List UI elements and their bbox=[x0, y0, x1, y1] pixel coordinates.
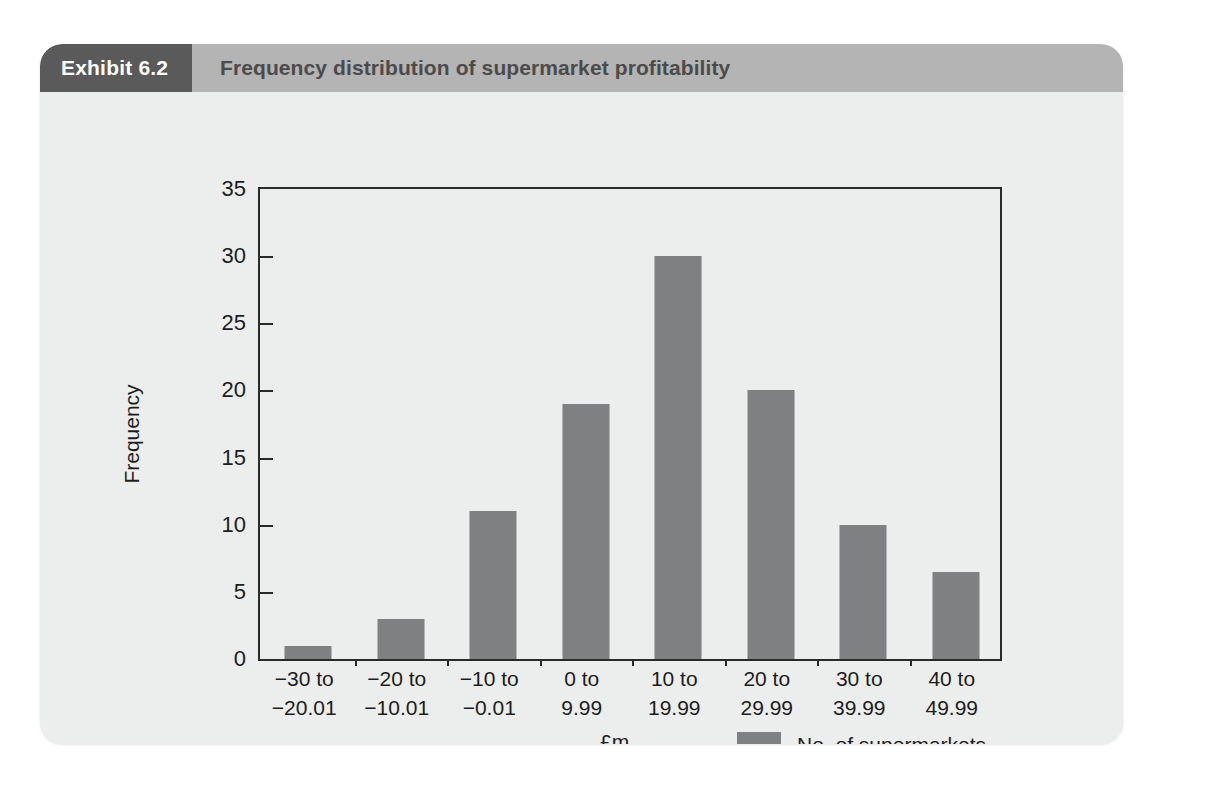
bar-slot bbox=[447, 189, 540, 659]
exhibit-number-label: Exhibit 6.2 bbox=[61, 56, 168, 80]
x-axis-category-line: −0.01 bbox=[443, 693, 536, 722]
bar[interactable] bbox=[562, 404, 609, 659]
x-axis-category-line: 30 to bbox=[813, 664, 906, 693]
exhibit-number-band: Exhibit 6.2 bbox=[40, 44, 192, 92]
x-axis-category-line: 40 to bbox=[906, 664, 999, 693]
y-axis-tick-label: 20 bbox=[222, 377, 246, 403]
x-axis-category-label: −20 to−10.01 bbox=[351, 664, 444, 722]
x-axis-category-line: 29.99 bbox=[721, 693, 814, 722]
x-axis-category-label: −30 to−20.01 bbox=[258, 664, 351, 722]
y-axis-tick-label: 35 bbox=[222, 176, 246, 202]
x-axis-category-line: −10 to bbox=[443, 664, 536, 693]
exhibit-header: Exhibit 6.2 Frequency distribution of su… bbox=[40, 44, 1123, 92]
bar[interactable] bbox=[377, 619, 424, 659]
bar-slot bbox=[262, 189, 355, 659]
bar-slot bbox=[355, 189, 448, 659]
plot-frame: 05101520253035 bbox=[258, 187, 1002, 661]
x-axis-category-line: 20 to bbox=[721, 664, 814, 693]
y-axis-tick-label: 25 bbox=[222, 310, 246, 336]
x-axis-category-line: −20 to bbox=[351, 664, 444, 693]
y-axis-tick-label: 30 bbox=[222, 243, 246, 269]
y-axis-title: Frequency bbox=[120, 334, 144, 534]
y-axis-tick-label: 15 bbox=[222, 445, 246, 471]
x-axis-category-label: −10 to−0.01 bbox=[443, 664, 536, 722]
x-axis-category-label: 30 to39.99 bbox=[813, 664, 906, 722]
x-axis-category-label: 10 to19.99 bbox=[628, 664, 721, 722]
bar-slot bbox=[540, 189, 633, 659]
x-axis-category-line: 10 to bbox=[628, 664, 721, 693]
y-axis-tick-label: 5 bbox=[234, 579, 246, 605]
x-axis-category-line: 49.99 bbox=[906, 693, 999, 722]
x-axis-category-line: 0 to bbox=[536, 664, 629, 693]
exhibit-title-band: Frequency distribution of supermarket pr… bbox=[192, 44, 1123, 92]
x-axis-category-line: 19.99 bbox=[628, 693, 721, 722]
bar[interactable] bbox=[655, 256, 702, 659]
bar[interactable] bbox=[470, 511, 517, 659]
bar[interactable] bbox=[747, 390, 794, 659]
chart-area: Frequency 05101520253035 −30 to−20.01−20… bbox=[40, 92, 1123, 744]
bar[interactable] bbox=[932, 572, 979, 659]
x-axis-title: £m bbox=[600, 730, 629, 744]
x-axis-labels: −30 to−20.01−20 to−10.01−10 to−0.010 to9… bbox=[258, 664, 1002, 726]
y-axis-tick-label: 10 bbox=[222, 512, 246, 538]
x-axis-category-line: 39.99 bbox=[813, 693, 906, 722]
bar-slot bbox=[910, 189, 1003, 659]
exhibit-card: Exhibit 6.2 Frequency distribution of su… bbox=[40, 44, 1123, 744]
bar-slot bbox=[725, 189, 818, 659]
x-axis-category-line: −30 to bbox=[258, 664, 351, 693]
x-axis-category-line: −10.01 bbox=[351, 693, 444, 722]
exhibit-title-label: Frequency distribution of supermarket pr… bbox=[220, 56, 730, 80]
x-axis-category-label: 0 to9.99 bbox=[536, 664, 629, 722]
x-axis-category-line: 9.99 bbox=[536, 693, 629, 722]
chart-legend: No. of supermarkets bbox=[737, 732, 986, 744]
bars-layer bbox=[262, 189, 998, 659]
x-axis-category-line: −20.01 bbox=[258, 693, 351, 722]
bar[interactable] bbox=[840, 525, 887, 659]
y-axis-tick-label: 0 bbox=[234, 646, 246, 672]
bar-slot bbox=[632, 189, 725, 659]
bar-slot bbox=[817, 189, 910, 659]
legend-swatch bbox=[737, 732, 781, 744]
x-axis-category-label: 40 to49.99 bbox=[906, 664, 999, 722]
x-axis-category-label: 20 to29.99 bbox=[721, 664, 814, 722]
bar[interactable] bbox=[285, 646, 332, 659]
legend-label: No. of supermarkets bbox=[797, 733, 986, 745]
